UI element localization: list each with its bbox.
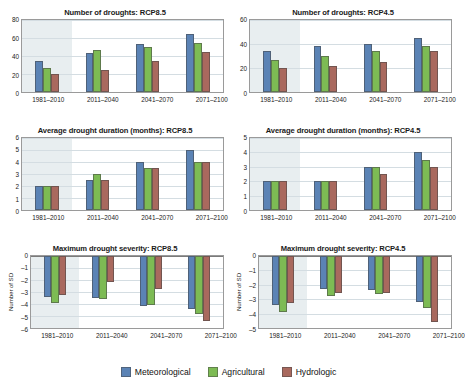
y-tick-label: –1 [21, 264, 28, 271]
x-axis-ticks: 1981–20102011–20402041–20702071–2100 [6, 93, 224, 106]
x-tick-label: 2041–2070 [150, 332, 182, 339]
bar [188, 256, 195, 309]
y-tick-label: –4 [249, 311, 256, 318]
panel-title: Average drought duration (months): RCP8.… [6, 126, 224, 137]
panel-title: Average drought duration (months): RCP4.… [234, 126, 452, 137]
bar [364, 44, 372, 92]
bar [279, 256, 286, 312]
plot-area [249, 19, 452, 93]
plot-row: 0123456 [6, 137, 224, 211]
y-tick-label: 40 [12, 53, 19, 60]
bar [43, 186, 51, 210]
gridline [250, 138, 451, 139]
bar [279, 181, 287, 210]
bar [93, 50, 101, 92]
x-tick-label: 1981–2010 [32, 214, 64, 221]
legend-item[interactable]: Meteorological [121, 367, 191, 377]
bar [203, 256, 210, 321]
bar [92, 256, 99, 298]
panel-title: Maximum drought severity: RCP4.5 [234, 244, 452, 255]
bar [368, 256, 375, 290]
y-tick-label: 3 [243, 163, 247, 170]
legend-swatch-icon [121, 367, 131, 377]
chart-legend: MeteorologicalAgriculturalHydrologic [0, 367, 457, 377]
y-tick-label: 5 [15, 146, 19, 153]
y-axis-ticks: 020406080 [6, 19, 21, 93]
plot-area [258, 255, 452, 329]
y-tick-label: 1 [15, 195, 19, 202]
bar [155, 256, 162, 289]
x-tick-label: 2071–2100 [205, 332, 237, 339]
plot-row: Number of SD 0–1–2–3–4–5 [234, 255, 452, 329]
legend-label: Hydrologic [296, 367, 337, 377]
y-tick-label: 4 [15, 158, 19, 165]
y-tick-label: 20 [240, 65, 247, 72]
x-tick-label: 2041–2070 [378, 332, 410, 339]
bar [430, 51, 438, 92]
legend-item[interactable]: Hydrologic [282, 367, 337, 377]
x-tick-label: 2011–2040 [87, 214, 119, 221]
x-tick-label: 2011–2040 [324, 332, 356, 339]
bar [422, 46, 430, 92]
bar [383, 256, 390, 293]
panel-number-droughts-rcp45: Number of droughts: RCP4.5 0204060 1981–… [234, 8, 452, 120]
bar [86, 180, 94, 210]
bar [416, 256, 423, 302]
bar [136, 162, 144, 210]
bar [195, 256, 202, 314]
x-tick-label: 2011–2040 [96, 332, 128, 339]
bar [372, 167, 380, 210]
y-tick-label: –2 [21, 276, 28, 283]
x-tick-label: 2011–2040 [315, 96, 347, 103]
x-axis-ticks: 1981–20102011–20402041–20702071–2100 [234, 329, 452, 342]
bar [329, 181, 337, 210]
plot-row: 012345 [234, 137, 452, 211]
bar [380, 62, 388, 92]
bar [335, 256, 342, 293]
gridline [22, 20, 223, 21]
bar [43, 68, 51, 92]
bar [263, 181, 271, 210]
y-tick-label: 2 [243, 178, 247, 185]
y-axis-ticks: 0204060 [234, 19, 249, 93]
x-tick-label: 2071–2100 [433, 332, 465, 339]
bar [152, 61, 160, 92]
y-axis-ticks: 012345 [234, 137, 249, 211]
x-tick-label: 2041–2070 [369, 96, 401, 103]
y-tick-label: 5 [243, 134, 247, 141]
bar [35, 186, 43, 210]
bar [202, 52, 210, 92]
x-tick-label: 2071–2100 [424, 214, 456, 221]
y-tick-label: 60 [12, 34, 19, 41]
gridline [259, 314, 451, 315]
panel-max-severity-rcp45: Maximum drought severity: RCP4.5 Number … [234, 244, 452, 356]
bar [144, 168, 152, 210]
bar [101, 70, 109, 93]
bar [99, 256, 106, 299]
y-tick-label: –5 [21, 313, 28, 320]
y-tick-label: 6 [15, 134, 19, 141]
y-tick-label: 20 [12, 71, 19, 78]
x-tick-label: 2011–2040 [87, 96, 119, 103]
legend-swatch-icon [282, 367, 292, 377]
panel-number-droughts-rcp85: Number of droughts: RCP8.5 020406080 198… [6, 8, 224, 120]
x-tick-label: 2041–2070 [141, 96, 173, 103]
gridline [250, 20, 451, 21]
bar [140, 256, 147, 306]
bar [194, 162, 202, 210]
bar [51, 186, 59, 210]
plot-area [249, 137, 452, 211]
bar [263, 51, 271, 92]
legend-swatch-icon [208, 367, 218, 377]
gridline [22, 138, 223, 139]
panel-avg-duration-rcp45: Average drought duration (months): RCP4.… [234, 126, 452, 238]
panel-max-severity-rcp85: Maximum drought severity: RCP8.5 Number … [6, 244, 224, 356]
bar [375, 256, 382, 294]
x-tick-label: 2071–2100 [424, 96, 456, 103]
bar [51, 256, 58, 303]
legend-item[interactable]: Agricultural [208, 367, 265, 377]
bar [86, 53, 94, 92]
legend-label: Agricultural [222, 367, 265, 377]
y-axis-label: Number of SD [234, 255, 243, 329]
bar [321, 56, 329, 92]
